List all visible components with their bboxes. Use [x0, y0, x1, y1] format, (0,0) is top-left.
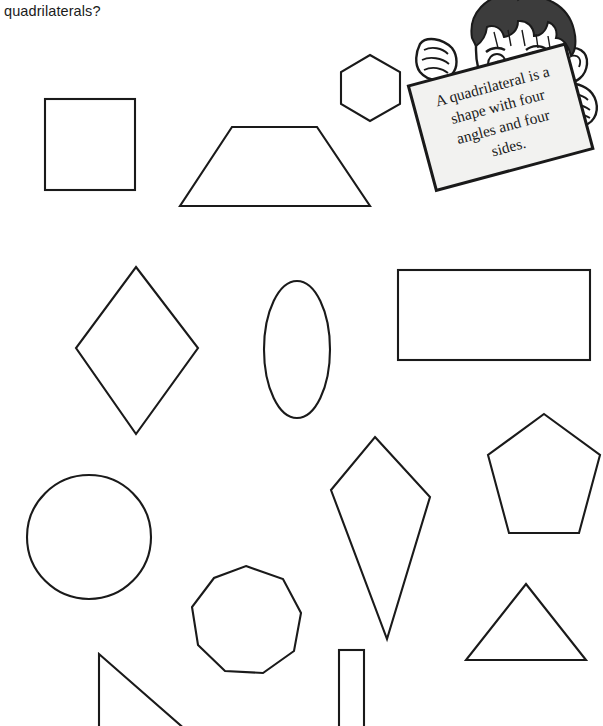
shape-rectangle-narrow[interactable] — [339, 650, 364, 726]
shape-hexagon[interactable] — [341, 55, 400, 121]
shape-circle[interactable] — [27, 475, 151, 599]
shape-nonagon[interactable] — [192, 566, 301, 673]
shape-trapezoid[interactable] — [180, 127, 370, 206]
shape-triangle[interactable] — [466, 584, 586, 660]
shape-pentagon[interactable] — [488, 414, 600, 533]
shape-right-triangle[interactable] — [99, 654, 203, 726]
shape-rectangle-wide[interactable] — [398, 270, 590, 360]
cartoon-boy-holding-sign: A quadrilateral is a shape with four ang… — [398, 0, 603, 209]
worksheet-page: quadrilaterals? — [0, 0, 603, 726]
shape-kite[interactable] — [331, 437, 430, 639]
shape-rhombus[interactable] — [76, 267, 198, 434]
shape-square[interactable] — [45, 99, 135, 190]
shape-ellipse[interactable] — [264, 281, 330, 418]
